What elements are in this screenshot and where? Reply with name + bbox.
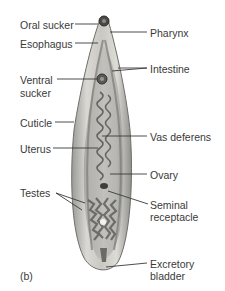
- label-uterus: Uterus: [20, 143, 51, 155]
- label-intestine: Intestine: [150, 63, 190, 75]
- label-esophagus: Esophagus: [20, 38, 73, 50]
- label-bladder: bladder: [150, 270, 185, 282]
- label-oral-sucker: Oral sucker: [20, 19, 74, 31]
- label-ventral: Ventral: [20, 74, 53, 86]
- label-seminal: Seminal: [150, 199, 188, 211]
- label-ovary: Ovary: [150, 169, 178, 181]
- label-vas-deferens: Vas deferens: [150, 131, 211, 143]
- label-receptacle: receptacle: [150, 211, 198, 223]
- label-cuticle: Cuticle: [20, 117, 52, 129]
- label-excretory: Excretory: [150, 258, 194, 270]
- label-sucker: sucker: [20, 87, 51, 99]
- panel-label: (b): [20, 270, 33, 282]
- label-testes: Testes: [20, 187, 50, 199]
- label-pharynx: Pharynx: [150, 27, 189, 39]
- ovary-shape: [100, 183, 108, 189]
